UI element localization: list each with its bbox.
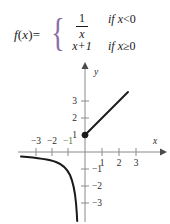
- y-label-neg2: −2: [92, 181, 102, 191]
- piecewise-function-figure: f(x)= { 1 x if x<0 x+1 if x≥0: [0, 0, 170, 224]
- case-1-expression: 1 x: [60, 12, 104, 40]
- closed-endpoint-dot: [82, 132, 88, 138]
- y-label-1: 1: [72, 130, 77, 140]
- fraction-one-over-x: 1 x: [76, 12, 88, 40]
- coordinate-graph: −3 −2 −1 1 2 3 1 2 3 −1 −2 −3 x y: [0, 58, 170, 224]
- case-2-relation: ≥: [123, 39, 130, 53]
- case-1-relation: <: [123, 12, 130, 26]
- y-axis-label: y: [93, 67, 99, 77]
- fraction-numerator: 1: [76, 12, 88, 25]
- hyperbola-branch-curve: [21, 157, 77, 222]
- x-axis-label: x: [152, 136, 158, 146]
- y-axis-arrowhead: [82, 62, 89, 69]
- function-definition: f(x)= { 1 x if x<0 x+1 if x≥0: [0, 6, 170, 58]
- x-label-3: 3: [134, 158, 139, 168]
- case-1-condition: if x<0: [108, 12, 136, 27]
- case-1-if: if: [108, 12, 115, 26]
- case-2-if: if: [108, 39, 115, 53]
- y-label-neg1: −1: [92, 164, 102, 174]
- x-label-2: 2: [117, 158, 122, 168]
- function-label: f(x)=: [14, 27, 40, 43]
- y-label-2: 2: [72, 113, 77, 123]
- equals-sign: =: [33, 27, 41, 42]
- case-2-expression: x+1: [60, 39, 104, 54]
- case-2-condition: if x≥0: [108, 39, 136, 54]
- y-label-3: 3: [72, 96, 77, 106]
- x-label-neg3: −3: [31, 136, 41, 146]
- case-2-value: 0: [130, 39, 136, 53]
- x-axis-arrowhead: [160, 149, 167, 156]
- x-label-neg2: −2: [47, 136, 57, 146]
- case-1-value: 0: [130, 12, 136, 26]
- y-label-neg3: −3: [92, 198, 102, 208]
- linear-piece-curve: [85, 92, 128, 135]
